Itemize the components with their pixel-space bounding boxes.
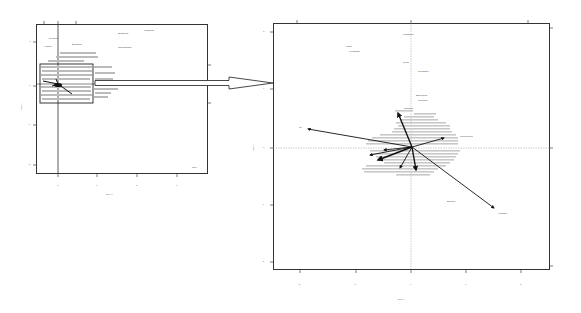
overview-point-label: Aberdeen	[48, 38, 58, 40]
detail-y-tick-0: 2	[263, 31, 264, 34]
selection-box	[40, 64, 93, 103]
biplot-graphics	[0, 0, 581, 313]
overview-y-tick-1: 0	[29, 85, 30, 88]
overview-x-axis-label: Dim 1	[106, 193, 113, 196]
overview-point-label: Hamburg	[144, 30, 154, 32]
overview-y-axis-label: Dim 2	[20, 103, 23, 110]
detail-y-tick-2: 0	[263, 147, 264, 150]
detail-point-label: Bunbury	[447, 201, 456, 203]
detail-x-tick-1: -1	[354, 284, 356, 287]
detail-point-label: Esperance	[416, 95, 427, 97]
overview-y-tick-0: 1	[29, 41, 30, 44]
detail-point-label: Northam	[404, 108, 413, 110]
arrow-label: Wind speed	[460, 136, 473, 138]
overview-point-label: Atlanta	[44, 46, 51, 48]
detail-x-tick-0: -2	[298, 284, 300, 287]
detail-x-axis-label: Dim 1	[398, 298, 405, 301]
overview-point-label: Copenhagen	[118, 47, 132, 49]
detail-x-tick-4: 2	[520, 284, 521, 287]
overview-y-tick-3: -2	[28, 164, 30, 167]
arrow-label: Humidity	[498, 213, 507, 215]
detail-point-label: Albany	[345, 46, 352, 48]
overview-x-tick-3: 3	[176, 185, 177, 188]
detail-point-label: Kalgoorlie	[403, 34, 414, 36]
overview-y-tick-2: -1	[28, 124, 30, 127]
arrow-var-right	[412, 138, 444, 147]
overview-point-label: Budapest	[118, 33, 128, 35]
overview-x-tick-0: 0	[57, 185, 58, 188]
detail-point-label: Geraldton	[418, 71, 429, 73]
zoom-arrow-icon	[95, 77, 273, 89]
arrow-var-up	[398, 113, 412, 147]
detail-y-tick-4: -2	[262, 261, 264, 264]
overview-origin-cluster	[54, 83, 62, 87]
detail-x-tick-2: 0	[410, 284, 411, 287]
detail-y-axis-label: Dim 2	[252, 144, 255, 151]
arrow-label: Ta	[299, 127, 302, 129]
overview-x-tick-2: 2	[136, 185, 137, 188]
detail-point-label: Wyndham	[349, 51, 360, 53]
overview-point-label: Bergamo	[72, 44, 82, 46]
detail-point-label: Merredin	[418, 100, 427, 102]
detail-point-label: Perth	[403, 62, 409, 64]
overview-corner-label: pt(0)	[192, 167, 197, 169]
detail-y-tick-1: 1	[263, 88, 264, 91]
detail-y-tick-3: -1	[262, 204, 264, 207]
overview-x-tick-1: 1	[96, 185, 97, 188]
overview-label-cloud	[41, 52, 118, 100]
detail-x-tick-3: 1	[465, 284, 466, 287]
